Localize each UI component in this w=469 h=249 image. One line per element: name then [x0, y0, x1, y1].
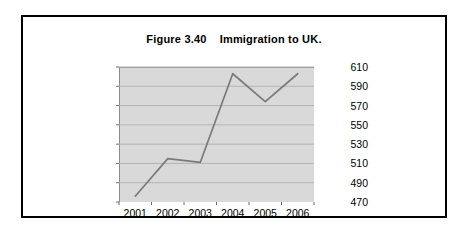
- x-axis-tick-label: 2005: [254, 207, 277, 219]
- x-axis-tick-label: 2002: [156, 207, 179, 219]
- figure-frame: Figure 3.40 Immigration to UK. 470490510…: [21, 15, 447, 218]
- page-title: Figure 3.40 Immigration to UK.: [23, 33, 445, 45]
- x-axis-tick-label: 2004: [221, 207, 244, 219]
- x-axis-tick-label: 2001: [124, 207, 147, 219]
- y-axis-tick-label: 510: [322, 157, 368, 169]
- y-axis-tick-label: 590: [322, 80, 368, 92]
- line-chart: 470490510530550570590610 200120022003200…: [119, 67, 409, 212]
- x-axis-tick-labels: 200120022003200420052006: [119, 207, 334, 223]
- plot-area: [119, 67, 314, 202]
- x-axis-tick-label: 2006: [286, 207, 309, 219]
- y-axis-tick-label: 570: [322, 100, 368, 112]
- y-axis-tick-label: 610: [322, 61, 368, 73]
- y-axis-tick-label: 530: [322, 138, 368, 150]
- y-axis-tick-label: 550: [322, 119, 368, 131]
- y-axis-tick-labels: 470490510530550570590610: [322, 67, 368, 202]
- axis-ticks: [119, 67, 314, 202]
- y-axis-tick-label: 490: [322, 177, 368, 189]
- x-axis-tick-label: 2003: [189, 207, 212, 219]
